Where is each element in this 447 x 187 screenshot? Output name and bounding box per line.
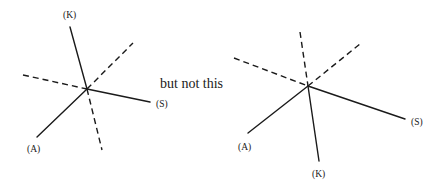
axis-s-line [308, 86, 405, 119]
label-a: (A) [238, 142, 251, 153]
caption-text: but not this [160, 76, 223, 91]
label-s: (S) [411, 117, 423, 128]
label-a: (A) [27, 144, 40, 155]
axis-a-line [248, 86, 308, 133]
label-s: (S) [156, 99, 168, 110]
label-k: (K) [63, 10, 76, 21]
dashed-line-left [23, 75, 87, 89]
left-diagram: (K) (S) (A) [23, 10, 168, 155]
axis-a-line [37, 89, 87, 137]
right-diagram: (A) (S) (K) [234, 32, 423, 180]
axis-k-line [308, 86, 319, 161]
axis-s-line [87, 89, 150, 102]
label-k: (K) [312, 169, 325, 180]
dashed-line-down [87, 89, 102, 150]
axis-k-line [70, 27, 87, 89]
dashed-line-up [300, 32, 308, 86]
dashed-line-upper-right [308, 44, 360, 86]
dashed-line-left [234, 58, 308, 86]
figure: (K) (S) (A) but not this (A) (S) (K) [0, 0, 447, 187]
dashed-line-upper-right [87, 43, 133, 89]
